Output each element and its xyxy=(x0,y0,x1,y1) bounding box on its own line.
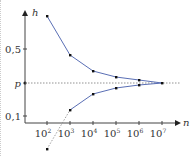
y-tick-01: 0,1 xyxy=(5,111,21,122)
x-tick-1e5: 105 xyxy=(104,127,121,139)
series-upper-line xyxy=(47,16,162,83)
x-axis-label: n xyxy=(183,117,189,128)
y-axis-label: h xyxy=(32,7,38,18)
x-tick-1e3: 103 xyxy=(58,127,75,139)
x-axis-arrow-icon xyxy=(175,120,181,126)
chart: h n 0,5 0,1 p 102 103 104 105 106 107 xyxy=(0,0,192,157)
x-tick-1e2: 102 xyxy=(35,127,52,139)
x-tick-1e7: 107 xyxy=(150,127,167,139)
y-tick-05: 0,5 xyxy=(5,44,21,55)
x-tick-1e6: 106 xyxy=(127,127,144,139)
x-tick-1e4: 104 xyxy=(81,127,98,139)
y-tick-p: p xyxy=(15,78,22,89)
y-axis-arrow-icon xyxy=(22,10,28,16)
